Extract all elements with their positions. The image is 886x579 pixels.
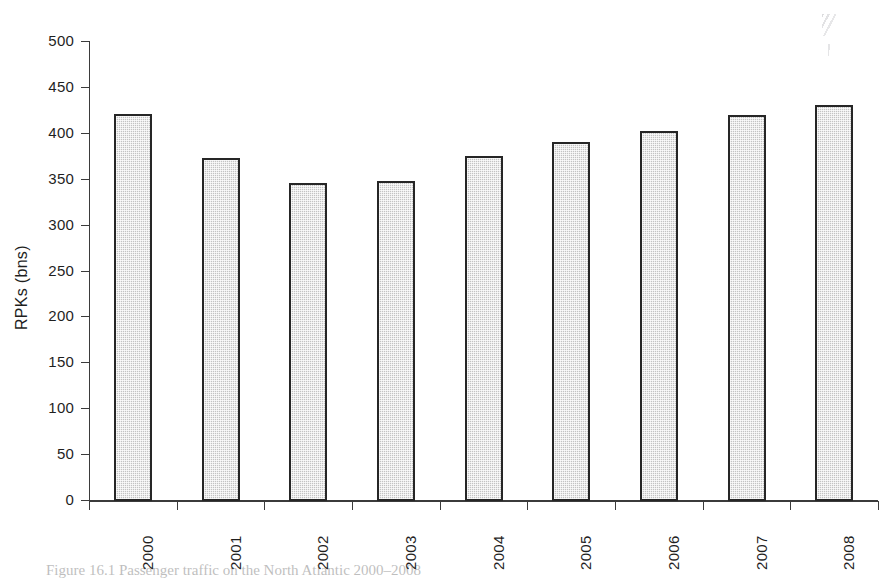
y-axis-tick	[81, 179, 89, 180]
bar-2000	[114, 114, 152, 501]
y-axis-tick	[81, 362, 89, 363]
x-axis-label-2007: 2007	[754, 510, 769, 570]
x-axis-tick	[89, 501, 90, 510]
bar-2006	[640, 131, 678, 501]
scan-artifact-secondary-icon	[828, 44, 837, 56]
x-axis-label-2008: 2008	[841, 510, 856, 570]
y-axis-tick-label: 100	[14, 400, 74, 415]
bar-2003	[377, 181, 415, 501]
x-axis-label-2001: 2001	[228, 510, 243, 570]
x-axis-label-2000: 2000	[140, 510, 155, 570]
x-axis-tick	[352, 501, 353, 510]
x-axis-tick	[177, 501, 178, 510]
x-axis-tick	[527, 501, 528, 510]
x-axis-tick	[440, 501, 441, 510]
x-axis-tick	[615, 501, 616, 510]
bar-2004	[465, 156, 503, 501]
bar-2005	[552, 142, 590, 501]
y-axis-title: RPKs (bns)	[14, 245, 30, 330]
y-axis-tick	[81, 316, 89, 317]
y-axis-tick-label: 50	[14, 446, 74, 461]
y-axis-tick-label: 300	[14, 217, 74, 232]
y-axis-tick-label: 500	[14, 33, 74, 48]
figure-caption: Figure 16.1 Passenger traffic on the Nor…	[46, 562, 846, 579]
x-axis-tick	[878, 501, 879, 510]
x-axis-tick	[264, 501, 265, 510]
y-axis-tick	[81, 271, 89, 272]
x-axis-label-2004: 2004	[491, 510, 506, 570]
y-axis-tick-label: 450	[14, 79, 74, 94]
y-axis-tick	[81, 133, 89, 134]
bar-2001	[202, 158, 240, 501]
y-axis-tick	[81, 408, 89, 409]
x-axis-label-2003: 2003	[403, 510, 418, 570]
x-axis-label-2002: 2002	[315, 510, 330, 570]
y-axis-tick-label: 400	[14, 125, 74, 140]
x-axis-tick	[790, 501, 791, 510]
y-axis-tick	[81, 454, 89, 455]
y-axis-tick	[81, 41, 89, 42]
bar-2008	[815, 105, 853, 501]
y-axis-tick-label: 350	[14, 171, 74, 186]
bar-2007	[728, 115, 766, 501]
y-axis-tick-label: 150	[14, 354, 74, 369]
y-axis-tick	[81, 225, 89, 226]
scan-artifact-icon	[822, 14, 848, 36]
y-axis-tick	[81, 87, 89, 88]
x-axis-label-2005: 2005	[578, 510, 593, 570]
y-axis-line	[89, 41, 90, 501]
y-axis-tick-label: 0	[14, 492, 74, 507]
x-axis-label-2006: 2006	[666, 510, 681, 570]
x-axis-tick	[703, 501, 704, 510]
bar-2002	[289, 183, 327, 501]
y-axis-tick	[81, 500, 89, 501]
